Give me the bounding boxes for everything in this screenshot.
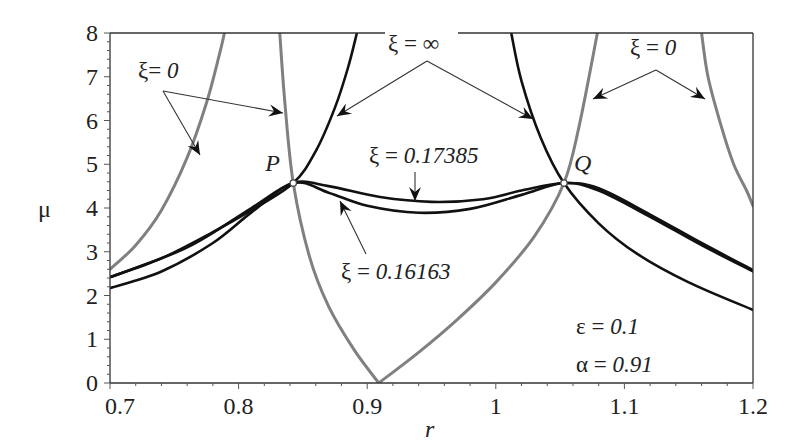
curve--0-v-through-q- — [379, 33, 598, 383]
annotation-label: ε = 0.1 — [576, 314, 639, 339]
curve-annotations: ξ= 0ξ = ∞ξ = 0ξ = 0.17385ξ = 0.16163ε = … — [138, 31, 677, 377]
x-tick-label: 0.7 — [105, 393, 135, 419]
y-tick-label: 6 — [86, 108, 98, 134]
annotation-label: ξ = 0.17385 — [369, 143, 479, 168]
arrowhead-icon — [337, 104, 352, 116]
x-tick-label: 0.9 — [352, 393, 382, 419]
y-tick-label: 5 — [86, 151, 98, 177]
curve--0-v-through-p- — [280, 33, 379, 383]
y-tick-label: 2 — [86, 283, 98, 309]
y-tick-label: 8 — [86, 20, 98, 46]
plot-frame — [110, 33, 753, 383]
x-tick-label: 1.1 — [609, 393, 639, 419]
annotation-label: ξ = 0.16163 — [341, 259, 451, 284]
y-tick-label: 1 — [86, 326, 98, 352]
y-tick-label: 3 — [86, 239, 98, 265]
y-tick-label: 4 — [86, 195, 98, 221]
x-tick-label: 1 — [490, 393, 502, 419]
annotation-label: α = 0.91 — [576, 352, 653, 377]
point-marker-q — [561, 180, 567, 186]
x-axis-label: r — [425, 416, 435, 442]
annotation-label: ξ= 0 — [138, 58, 179, 83]
arrowhead-icon — [690, 87, 705, 99]
point-label-q: Q — [574, 150, 591, 176]
x-tick-label: 1.2 — [738, 393, 768, 419]
plot-curves — [110, 33, 753, 383]
y-axis-label: μ — [38, 196, 51, 222]
annotation-label: ξ = 0 — [630, 35, 677, 60]
y-tick-label: 7 — [86, 64, 98, 90]
curve--0-right-branch- — [702, 33, 753, 206]
axis-ticks — [104, 33, 753, 389]
y-tick-label: 0 — [86, 370, 98, 396]
x-tick-label: 0.8 — [224, 393, 254, 419]
mu-vs-r-chart: 0.70.80.911.11.2012345678 PQ ξ= 0ξ = ∞ξ … — [0, 0, 810, 447]
curve--right- — [511, 33, 753, 310]
point-marker-p — [290, 180, 296, 186]
point-label-p: P — [264, 150, 280, 176]
annotation-label: ξ = ∞ — [388, 31, 439, 56]
tick-labels: 0.70.80.911.11.2012345678 — [86, 20, 768, 419]
